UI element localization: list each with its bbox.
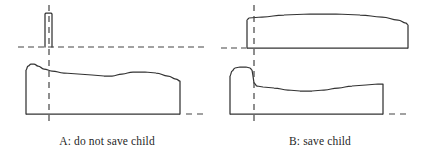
panel-a-group [18, 5, 207, 125]
panel-b-bump-then-valley-block [230, 67, 383, 114]
figure-container: A: do not save child B: save child [0, 0, 427, 156]
panel-b-group [221, 5, 410, 125]
panel-b-wide-arched-parent-block [247, 14, 408, 48]
panel-b-caption: B: save child [213, 134, 427, 148]
panel-a-caption: A: do not save child [0, 134, 214, 148]
figure-drawing-canvas [0, 0, 427, 156]
